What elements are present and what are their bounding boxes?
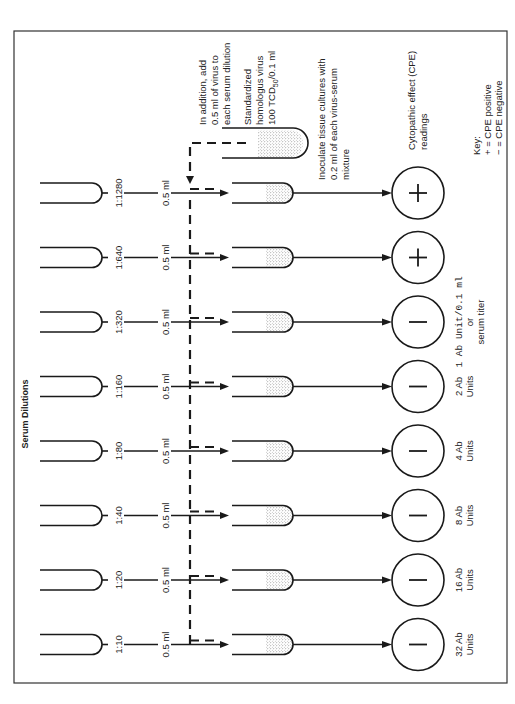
dilution-label: 1:10 (113, 635, 124, 654)
key-negative: − = CPE negative (493, 81, 504, 155)
virus-source: In addition, add 0.5 ml of virus to each… (186, 43, 308, 645)
dilution-row: 1:6400.5 ml (40, 232, 444, 284)
antibody-units-label: 4 Ab (453, 441, 464, 460)
dilution-tube-icon (40, 506, 102, 526)
antibody-units-label: serum titer (475, 300, 486, 345)
virus-label-2: homologus virus (254, 56, 265, 125)
arrowhead-icon (382, 448, 392, 455)
section-title: Serum Dilutions (20, 379, 30, 448)
cpe-heading-1: Cytopathic effect (CPE) (406, 51, 417, 150)
inoculate-note-1: Inoculate tissue cultures with (316, 59, 327, 180)
dilution-row: 1:100.5 ml32 AbUnits (40, 619, 475, 671)
antibody-units-label: Units (464, 440, 475, 462)
inoculate-note-2: 0.2 ml of each virus-serum (328, 68, 339, 180)
dilution-tube-icon (40, 248, 102, 268)
key-title: Key: (471, 136, 482, 155)
volume-label: 0.5 ml (160, 180, 171, 206)
dilution-row: 1:3200.5 ml1 Ab Unit/0.1 mlorserum titer (40, 276, 486, 368)
dilution-label: 1:1280 (113, 178, 124, 207)
virus-instruction-3: each serum dilution (221, 43, 232, 125)
virus-instruction-1: In addition, add (197, 60, 208, 125)
mixture-fill (266, 442, 292, 460)
antibody-units-label: 8 Ab (453, 506, 464, 525)
mixture-fill (266, 636, 292, 654)
antibody-units-label: Units (464, 504, 475, 526)
antibody-units-label: 2 Ab (453, 377, 464, 396)
arrowhead-icon (220, 254, 229, 261)
dilution-tube-icon (40, 312, 102, 332)
dilution-row: 1:12800.5 ml (40, 167, 444, 219)
volume-label: 0.5 ml (160, 632, 171, 658)
mixture-fill (266, 378, 292, 396)
arrowhead-icon (382, 319, 392, 326)
mixture-fill (266, 313, 292, 331)
antibody-units-label: Units (464, 633, 475, 655)
arrowhead-icon (382, 190, 392, 197)
virus-fill (258, 130, 303, 157)
dilution-row: 1:800.5 ml4 AbUnits (40, 425, 475, 477)
arrowhead-icon (382, 641, 392, 648)
volume-label: 0.5 ml (160, 309, 171, 335)
antibody-units-label: 16 Ab (453, 568, 464, 592)
dilution-label: 1:160 (113, 375, 124, 399)
antibody-units-label: Units (464, 375, 475, 397)
dilution-label: 1:320 (113, 310, 124, 334)
arrowhead-icon (382, 512, 392, 519)
mixture-fill (266, 249, 292, 267)
volume-label: 0.5 ml (160, 245, 171, 271)
antibody-units-label: Units (464, 569, 475, 591)
key-positive: + = CPE positive (482, 84, 493, 155)
dilution-tube-icon (40, 441, 102, 461)
dilution-row: 1:1600.5 ml2 AbUnits (40, 361, 475, 413)
antibody-units-label: 32 Ab (453, 632, 464, 656)
volume-label: 0.5 ml (160, 374, 171, 400)
arrowhead-icon (220, 512, 229, 519)
volume-label: 0.5 ml (160, 503, 171, 529)
dilution-row: 1:400.5 ml8 AbUnits (40, 490, 475, 542)
dilution-rows: 1:12800.5 ml1:6400.5 ml1:3200.5 ml1 Ab U… (40, 167, 486, 671)
dilution-label: 1:20 (113, 571, 124, 590)
arrowhead-icon (220, 319, 229, 326)
dilution-label: 1:640 (113, 246, 124, 270)
virus-label-1: Standardized (242, 69, 253, 125)
arrowhead-icon (220, 577, 229, 584)
virus-instruction-2: 0.5 ml of virus to (209, 55, 220, 125)
arrowhead-icon (186, 176, 194, 184)
serum-neutralization-diagram: Serum Dilutions In addition, add 0.5 ml … (0, 0, 515, 704)
arrowhead-icon (220, 448, 229, 455)
volume-label: 0.5 ml (160, 438, 171, 464)
mixture-fill (266, 507, 292, 525)
legend-key: Key: + = CPE positive − = CPE negative (471, 81, 504, 155)
volume-label: 0.5 ml (160, 567, 171, 593)
dilution-row: 1:200.5 ml16 AbUnits (40, 554, 475, 606)
arrowhead-icon (220, 190, 229, 197)
arrowhead-icon (382, 577, 392, 584)
mixture-fill (266, 571, 292, 589)
dilution-tube-icon (40, 183, 102, 203)
mixture-fill (266, 184, 292, 202)
inoculate-note-3: mixture (340, 149, 351, 180)
arrowhead-icon (220, 641, 229, 648)
dilution-tube-icon (40, 377, 102, 397)
arrowhead-icon (382, 383, 392, 390)
dilution-tube-icon (40, 570, 102, 590)
dilution-tube-icon (40, 635, 102, 655)
virus-feed-line (190, 143, 246, 176)
arrowhead-icon (382, 254, 392, 261)
arrowhead-icon (220, 383, 229, 390)
virus-label-3: 100 TCD50/0.1 ml (266, 51, 279, 125)
antibody-units-label: or (464, 318, 475, 326)
dilution-label: 1:40 (113, 506, 124, 525)
cpe-heading-2: readings (418, 113, 429, 150)
dilution-label: 1:80 (113, 442, 124, 461)
